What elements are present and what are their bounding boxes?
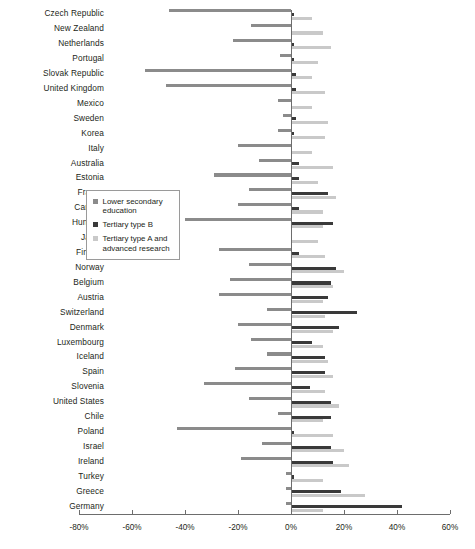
bar-lower — [238, 144, 291, 147]
bar-terta — [291, 106, 312, 109]
bars-area — [0, 0, 475, 505]
x-tick — [238, 510, 239, 514]
chart-legend: Lower secondary educationTertiary type B… — [86, 190, 180, 260]
bar-terta — [291, 181, 318, 184]
bar-terta — [291, 345, 323, 348]
bar-lower — [145, 69, 291, 72]
bar-lower — [204, 382, 291, 385]
bar-lower — [267, 308, 291, 311]
bar-lower — [283, 114, 291, 117]
bar-lower — [166, 84, 291, 87]
bar-terta — [291, 375, 333, 378]
x-tick-label: 40% — [372, 523, 422, 532]
bar-terta — [291, 390, 325, 393]
x-tick — [397, 510, 398, 514]
bar-lower — [251, 338, 291, 341]
legend-item: Tertiary type B — [93, 220, 172, 229]
bar-lower — [259, 159, 291, 162]
bar-terta — [291, 270, 344, 273]
bar-lower — [249, 397, 291, 400]
legend-label: Tertiary type B — [103, 220, 153, 229]
bar-lower — [249, 188, 291, 191]
bar-lower — [278, 412, 291, 415]
bar-terta — [291, 151, 312, 154]
bar-lower — [262, 442, 291, 445]
legend-item: Tertiary type A and advanced research — [93, 234, 172, 253]
bar-lower — [219, 293, 291, 296]
legend-swatch-icon — [93, 199, 98, 204]
bar-terta — [291, 166, 333, 169]
bar-lower — [233, 39, 291, 42]
bar-lower — [238, 203, 291, 206]
bar-lower — [230, 278, 291, 281]
bar-terta — [291, 46, 331, 49]
bar-lower — [267, 352, 291, 355]
x-tick-label: -20% — [213, 523, 263, 532]
plot-area: Czech RepublicNew ZealandNetherlandsPort… — [0, 0, 475, 549]
x-axis-line — [79, 514, 450, 515]
x-tick — [132, 510, 133, 514]
bar-terta — [291, 509, 323, 512]
bar-terta — [291, 240, 318, 243]
x-tick — [79, 510, 80, 514]
x-tick-label: -60% — [107, 523, 157, 532]
legend-swatch-icon — [93, 236, 98, 241]
bar-terta — [291, 61, 318, 64]
x-tick — [291, 510, 292, 514]
x-tick — [450, 510, 451, 514]
bar-terta — [291, 285, 333, 288]
x-tick-label: -80% — [54, 523, 104, 532]
bar-terta — [291, 434, 333, 437]
bar-terta — [291, 17, 312, 20]
x-tick-label: -40% — [160, 523, 210, 532]
bar-terta — [291, 404, 339, 407]
bar-terta — [291, 210, 323, 213]
bar-lower — [278, 99, 291, 102]
bar-lower — [214, 173, 291, 176]
bar-terta — [291, 315, 325, 318]
bar-lower — [241, 457, 291, 460]
bar-lower — [251, 24, 291, 27]
bar-terta — [291, 330, 333, 333]
x-tick-label: 60% — [425, 523, 475, 532]
legend-label: Lower secondary education — [103, 197, 173, 216]
x-tick-label: 0% — [266, 523, 316, 532]
bar-lower — [177, 427, 291, 430]
bar-lower — [249, 263, 291, 266]
bar-terta — [291, 494, 365, 497]
x-tick — [185, 510, 186, 514]
bar-lower — [238, 323, 291, 326]
bar-terta — [291, 31, 323, 34]
bar-terta — [291, 255, 325, 258]
bar-lower — [169, 9, 291, 12]
bar-lower — [219, 248, 291, 251]
legend-swatch-icon — [93, 222, 98, 227]
zero-axis-line — [291, 10, 292, 514]
bar-lower — [280, 54, 291, 57]
bar-terta — [291, 419, 323, 422]
bar-lower — [235, 367, 291, 370]
earnings-premium-chart: Czech RepublicNew ZealandNetherlandsPort… — [0, 0, 475, 549]
bar-terta — [291, 76, 312, 79]
bar-terta — [291, 464, 349, 467]
bar-terta — [291, 91, 325, 94]
bar-terta — [291, 225, 323, 228]
bar-terta — [291, 121, 328, 124]
bar-terta — [291, 300, 323, 303]
bar-terta — [291, 449, 344, 452]
legend-item: Lower secondary education — [93, 197, 172, 216]
x-tick — [344, 510, 345, 514]
bar-lower — [185, 218, 291, 221]
x-tick-label: 20% — [319, 523, 369, 532]
bar-lower — [278, 129, 291, 132]
legend-label: Tertiary type A and advanced research — [103, 234, 173, 253]
bar-terta — [291, 479, 323, 482]
bar-terta — [291, 360, 328, 363]
bar-terta — [291, 136, 325, 139]
bar-terta — [291, 196, 336, 199]
